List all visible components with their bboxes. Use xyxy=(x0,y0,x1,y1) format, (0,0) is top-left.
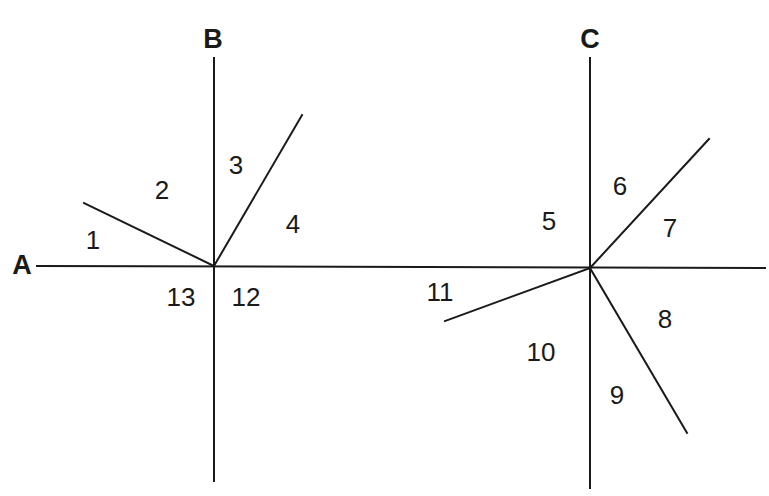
label-B: B xyxy=(203,26,223,53)
ray-B-upper-left xyxy=(84,203,214,266)
label-A: A xyxy=(12,252,32,279)
line-group xyxy=(37,58,765,488)
angle-3: 3 xyxy=(229,152,243,178)
label-C: C xyxy=(580,26,600,53)
angle-7: 7 xyxy=(663,215,677,241)
angle-10: 10 xyxy=(527,339,556,365)
angle-4: 4 xyxy=(286,211,300,237)
ray-C-lower-right xyxy=(590,268,687,433)
angle-2: 2 xyxy=(155,177,169,203)
transversal-A xyxy=(37,266,765,268)
angle-11: 11 xyxy=(427,279,454,305)
angle-9: 9 xyxy=(610,382,624,408)
angle-5: 5 xyxy=(542,208,556,234)
geometry-diagram: ABC12345678910111213 xyxy=(0,0,769,496)
angle-13: 13 xyxy=(167,284,196,310)
ray-B-upper-right xyxy=(214,115,302,266)
angle-1: 1 xyxy=(86,227,100,253)
ray-C-lower-left xyxy=(445,268,590,321)
geometry-canvas xyxy=(0,0,769,496)
angle-12: 12 xyxy=(232,284,261,310)
angle-6: 6 xyxy=(613,173,627,199)
angle-8: 8 xyxy=(658,306,672,332)
ray-C-upper-right xyxy=(590,139,709,268)
